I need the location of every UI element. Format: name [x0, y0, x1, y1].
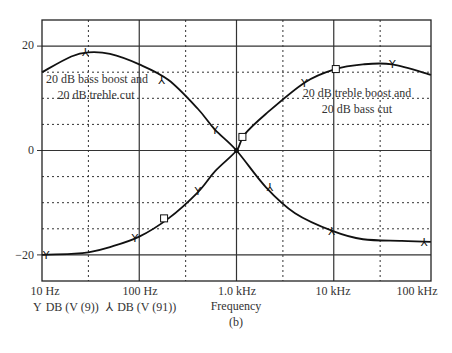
- y-tick-20: 20: [4, 38, 34, 53]
- x-axis-label: Frequency: [211, 299, 262, 314]
- svg-text:⅄: ⅄: [158, 74, 165, 87]
- legend-marker-v91-icon: ⅄: [106, 300, 113, 314]
- annotation-bass-boost-line1: 20 dB bass boost and: [46, 71, 146, 87]
- annotation-bass-boost: 20 dB bass boost and 20 dB treble cut: [46, 71, 146, 103]
- legend-marker-v9-icon: Y: [33, 300, 42, 314]
- svg-text:Y: Y: [42, 249, 50, 262]
- y-tick-neg20: −20: [4, 248, 34, 263]
- legend-label-v91: DB (V (91)): [117, 300, 176, 314]
- x-tick-100khz: 100 kHz: [397, 284, 438, 299]
- annotation-treble-boost: 20 dB treble boost and 20 dB bass cut: [302, 85, 412, 117]
- svg-text:Y: Y: [211, 124, 219, 137]
- legend: YDB (V (9)) ⅄DB (V (91)): [33, 300, 180, 315]
- x-tick-10hz: 10 Hz: [31, 284, 60, 299]
- svg-text:⅄: ⅄: [328, 225, 335, 238]
- x-tick-10khz: 10 kHz: [316, 284, 351, 299]
- svg-text:Y: Y: [130, 232, 138, 245]
- svg-text:Y: Y: [193, 185, 201, 198]
- x-tick-1khz: 1.0 kHz: [218, 284, 256, 299]
- svg-text:Y: Y: [388, 58, 396, 71]
- x-tick-100hz: 100 Hz: [123, 284, 158, 299]
- figure-caption: (b): [229, 315, 243, 330]
- y-tick-0: 0: [4, 143, 34, 158]
- annotation-treble-boost-line1: 20 dB treble boost and: [302, 85, 412, 101]
- legend-label-v9: DB (V (9)): [46, 300, 99, 314]
- svg-text:⅄: ⅄: [266, 181, 273, 194]
- svg-text:⅄: ⅄: [82, 46, 89, 59]
- svg-text:⅄: ⅄: [421, 236, 428, 249]
- annotation-treble-boost-line2: 20 dB bass cut: [302, 101, 412, 117]
- annotation-bass-boost-line2: 20 dB treble cut: [46, 87, 146, 103]
